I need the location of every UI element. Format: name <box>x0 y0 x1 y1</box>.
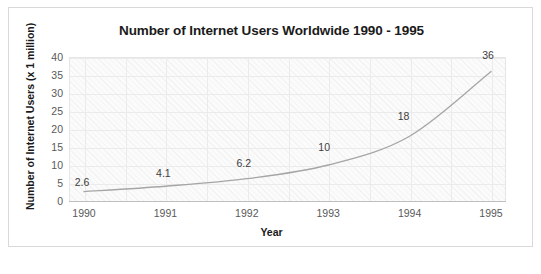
x-tick-label: 1990 <box>54 207 114 219</box>
vertical-gridline-minor <box>207 58 208 201</box>
vertical-gridline <box>166 58 167 201</box>
x-tick-label: 1992 <box>217 207 277 219</box>
x-tick-label: 1995 <box>461 207 521 219</box>
page-footer-caption <box>8 262 338 270</box>
plot-area <box>69 57 506 201</box>
vertical-gridline-minor <box>370 58 371 201</box>
y-tick-label: 15 <box>39 142 63 152</box>
data-point-label: 4.1 <box>140 167 186 179</box>
data-point-label: 10 <box>301 141 347 153</box>
horizontal-gridline <box>70 94 505 95</box>
y-tick-label: 35 <box>39 70 63 80</box>
data-point-label: 2.6 <box>59 176 105 188</box>
y-tick-label: 25 <box>39 106 63 116</box>
x-tick-label: 1994 <box>380 207 440 219</box>
vertical-gridline <box>411 58 412 201</box>
vertical-gridline-minor <box>126 58 127 201</box>
chart-figure: Number of Internet Users Worldwide 1990 … <box>8 7 533 247</box>
data-point-label: 36 <box>465 49 511 61</box>
horizontal-gridline <box>70 184 505 185</box>
vertical-gridline <box>329 58 330 201</box>
x-tick-label: 1993 <box>298 207 358 219</box>
y-tick-label: 0 <box>39 196 63 206</box>
x-tick-label: 1991 <box>135 207 195 219</box>
x-axis-title: Year <box>9 226 534 238</box>
horizontal-gridline <box>70 58 505 59</box>
horizontal-gridline <box>70 148 505 149</box>
data-point-label: 18 <box>381 110 427 122</box>
vertical-gridline <box>248 58 249 201</box>
y-tick-label: 40 <box>39 52 63 62</box>
y-tick-label: 10 <box>39 160 63 170</box>
y-tick-label: 30 <box>39 88 63 98</box>
data-point-label: 6.2 <box>221 157 267 169</box>
vertical-gridline <box>492 58 493 201</box>
vertical-gridline-minor <box>289 58 290 201</box>
y-tick-label: 20 <box>39 124 63 134</box>
chart-title: Number of Internet Users Worldwide 1990 … <box>9 23 534 38</box>
vertical-gridline-minor <box>451 58 452 201</box>
horizontal-gridline <box>70 130 505 131</box>
horizontal-gridline <box>70 112 505 113</box>
x-axis-line <box>69 201 506 202</box>
horizontal-gridline <box>70 166 505 167</box>
horizontal-gridline <box>70 76 505 77</box>
